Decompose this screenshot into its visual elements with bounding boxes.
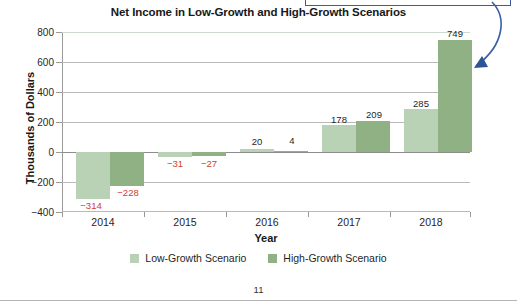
chart-page: Net Income in Low-Growth and High-Growth…	[0, 0, 517, 308]
footer-divider	[0, 300, 517, 301]
bar-label-2016-high: 4	[261, 135, 323, 146]
x-axis-tick	[308, 212, 309, 217]
y-tick-label: 0	[8, 147, 54, 158]
x-tick-label-2014: 2014	[73, 216, 133, 228]
bar-label-2014-high: −228	[97, 187, 159, 198]
legend-label-high-growth: High-Growth Scenario	[283, 252, 386, 264]
bar-2016-low[interactable]	[240, 149, 274, 152]
bar-label-2014-low: −314	[60, 200, 122, 211]
y-tick-label: 800	[8, 27, 54, 38]
y-tick-label: 400	[8, 87, 54, 98]
legend-item-high-growth[interactable]: High-Growth Scenario	[268, 252, 386, 264]
x-tick-label-2018: 2018	[401, 216, 461, 228]
chart-legend: Low-Growth Scenario High-Growth Scenario	[0, 252, 517, 264]
x-axis-tick	[62, 212, 63, 217]
gridline	[62, 62, 470, 63]
y-tick-label: 200	[8, 117, 54, 128]
x-axis-tick	[226, 212, 227, 217]
legend-item-low-growth[interactable]: Low-Growth Scenario	[130, 252, 246, 264]
bar-label-2017-high: 209	[343, 109, 405, 120]
bar-2017-high[interactable]	[356, 121, 390, 152]
y-tick-label: −400	[8, 207, 54, 218]
x-axis-tick	[390, 212, 391, 217]
page-number: 11	[0, 284, 517, 295]
x-tick-label-2017: 2017	[319, 216, 379, 228]
bar-2018-high[interactable]	[438, 40, 472, 152]
gridline	[62, 92, 470, 93]
x-axis-tick	[470, 212, 471, 217]
bar-2017-low[interactable]	[322, 125, 356, 152]
legend-label-low-growth: Low-Growth Scenario	[145, 252, 246, 264]
gridline	[62, 32, 470, 33]
legend-swatch-icon	[268, 254, 277, 263]
bar-2015-high[interactable]	[192, 152, 226, 156]
y-tick-label: 600	[8, 57, 54, 68]
x-tick-label-2015: 2015	[155, 216, 215, 228]
bar-2015-low[interactable]	[158, 152, 192, 157]
bar-label-2018-high: 749	[424, 28, 486, 39]
x-axis-tick	[144, 212, 145, 217]
bar-label-2015-high: −27	[178, 158, 240, 169]
legend-swatch-icon	[130, 254, 139, 263]
gridline	[62, 211, 470, 212]
y-tick-label: −200	[8, 177, 54, 188]
bar-label-2018-low: 285	[390, 98, 452, 109]
x-axis-title: Year	[62, 232, 470, 244]
plot-area: −314 −228 −31 −27 20 4 178 209 285 749	[62, 32, 470, 212]
bar-2016-high[interactable]	[274, 151, 308, 152]
bar-2018-low[interactable]	[404, 109, 438, 152]
bar-2014-high[interactable]	[110, 152, 144, 186]
x-tick-label-2016: 2016	[237, 216, 297, 228]
chart-title: Net Income in Low-Growth and High-Growth…	[0, 6, 517, 18]
